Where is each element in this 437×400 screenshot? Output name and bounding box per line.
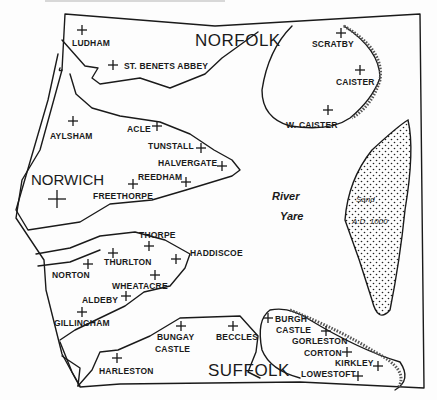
region-label-suffolk: SUFFOLK (208, 361, 290, 380)
place-label-gorleston: GORLESTON (292, 336, 347, 346)
burgh-castle-cross-icon (321, 326, 331, 336)
reedham-cross-icon (181, 177, 191, 187)
corton-cross-icon (342, 347, 352, 357)
aylsham-cross-icon (68, 116, 78, 126)
bungay-cross-icon (176, 321, 186, 331)
sandbank-label-line1: Sand (356, 195, 375, 204)
halvergate-cross-icon (217, 161, 227, 171)
thorpe-cross-icon (144, 241, 154, 251)
tunstall-cross-icon (196, 143, 206, 153)
place-label-burgh: BURGH (275, 314, 307, 324)
gillingham-cross-icon (77, 307, 87, 317)
city-label-norwich: NORWICH (31, 171, 104, 188)
place-label-acle: ACLE (127, 124, 151, 134)
place-label-ludham: LUDHAM (72, 38, 110, 48)
place-label-beccles: BECCLES (216, 332, 258, 342)
place-label-freethorpe: FREETHORPE (93, 191, 153, 201)
place-label-aldeby: ALDEBY (82, 295, 118, 305)
freethorpe-cross-icon (128, 179, 138, 189)
place-label-gillingham: GILLINGHAM (54, 318, 110, 328)
kirkley-cross-icon (373, 361, 383, 371)
historical-map-yare-estuary: NORFOLK SUFFOLK NORWICH River Yare Sand … (0, 0, 437, 400)
place-label-norton: NORTON (52, 270, 90, 280)
place-label-w-caister: W. CAISTER (286, 120, 338, 130)
place-label-harleston: HARLESTON (99, 366, 154, 376)
place-label-bungay: BUNGAY (157, 332, 194, 342)
w-caister-cross-icon (323, 105, 333, 115)
region-label-norfolk: NORFOLK (195, 31, 281, 50)
place-label-lowestoft: LOWESTOFT (301, 369, 357, 379)
beccles-cross-icon (228, 321, 238, 331)
labels-layer: NORFOLK SUFFOLK NORWICH River Yare Sand … (0, 0, 437, 400)
ludham-cross-icon (77, 25, 87, 35)
norwich-cross-icon (48, 190, 66, 208)
place-label-burgh-castle: CASTLE (276, 325, 311, 335)
caister-cross-icon (355, 65, 365, 75)
place-label-thorpe: THORPE (139, 230, 176, 240)
place-label-reedham: REEDHAM (138, 172, 182, 182)
place-label-aylsham: AYLSHAM (50, 131, 93, 141)
place-label-halvergate: HALVERGATE (158, 158, 217, 168)
burgh-cross-icon (263, 313, 273, 323)
st-benets-cross-icon (108, 60, 118, 70)
place-label-kirkley: KIRKLEY (335, 358, 374, 368)
place-label-caister: CAISTER (336, 77, 375, 87)
aldeby-cross-icon (121, 291, 131, 301)
river-label-line1: River (272, 190, 300, 202)
norton-cross-icon (83, 259, 93, 269)
place-label-haddiscoe: HADDISCOE (190, 248, 243, 258)
place-label-tunstall: TUNSTALL (148, 141, 194, 151)
river-label-line2: Yare (280, 210, 303, 222)
place-label-wheatacre: WHEATACRE (112, 281, 168, 291)
scratby-cross-icon (336, 28, 346, 38)
place-label-scratby: SCRATBY (312, 39, 354, 49)
harleston-cross-icon (112, 353, 122, 363)
wheatacre-cross-icon (150, 270, 160, 280)
place-label-corton: CORTON (304, 348, 342, 358)
acle-cross-icon (152, 121, 162, 131)
haddiscoe-cross-icon (171, 254, 181, 264)
place-label-bungay-castle: CASTLE (155, 344, 190, 354)
sandbank-label-line2: A.D. 1000 (351, 217, 388, 226)
place-label-thurlton: THURLTON (104, 257, 152, 267)
place-label-st-benets-abbey: ST. BENETS ABBEY (124, 61, 208, 71)
